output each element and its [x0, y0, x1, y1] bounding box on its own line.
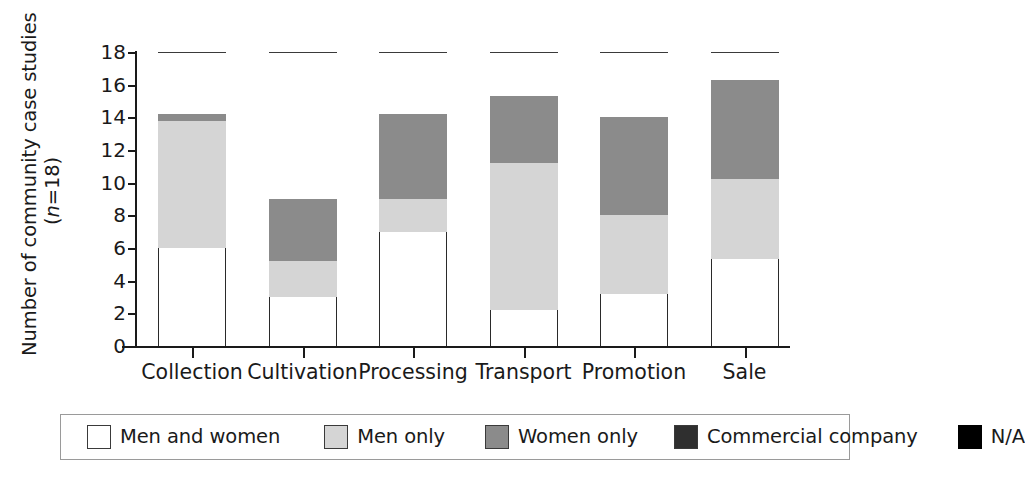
chart-legend: Men and womenMen onlyWomen onlyCommercia… [60, 414, 850, 460]
bar-segment-promotion-women-only [600, 117, 668, 215]
bar-top-outline [711, 52, 779, 53]
legend-item-women-only: Women only [485, 425, 638, 449]
y-axis-tick-mark [128, 346, 136, 348]
bar-segment-processing-women-only [379, 114, 447, 199]
x-axis-tick-label-transport: Transport [475, 362, 571, 383]
x-axis-tick-mark [303, 346, 305, 358]
y-axis-title-n-value: =18) [41, 157, 64, 205]
y-axis-tick-label: 16 [98, 75, 126, 95]
legend-label-men-only: Men only [357, 427, 445, 447]
legend-label-commercial-company: Commercial company [707, 427, 918, 447]
legend-label-n-a: N/A [991, 427, 1025, 447]
legend-swatch-n-a [958, 425, 982, 449]
bar-segment-cultivation-women-only [269, 199, 337, 261]
bar-segment-collection-men-and-women [158, 248, 226, 346]
y-axis-title-line2: (n=18) [41, 26, 64, 356]
bar-segment-cultivation-men-only [269, 261, 337, 297]
y-axis-tick-label: 12 [98, 140, 126, 160]
y-axis-title-wrapper: Number of community case studies (n=18) [0, 0, 56, 400]
bar-segment-sale-women-only [711, 80, 779, 180]
legend-item-men-and-women: Men and women [87, 425, 280, 449]
bar-sale [711, 52, 779, 346]
y-axis-tick-label: 6 [98, 238, 126, 258]
x-axis-tick-label-processing: Processing [358, 362, 467, 383]
bar-cultivation [269, 52, 337, 346]
bar-segment-cultivation-men-and-women [269, 297, 337, 346]
y-axis-tick-mark [128, 52, 136, 54]
y-axis-tick-label: 10 [98, 173, 126, 193]
y-axis-tick-label: 14 [98, 107, 126, 127]
legend-label-men-and-women: Men and women [120, 427, 280, 447]
y-axis-tick-label: 0 [98, 336, 126, 356]
bar-processing [379, 52, 447, 346]
legend-item-n-a: N/A [958, 425, 1025, 449]
bar-segment-transport-men-only [490, 163, 558, 310]
plot-area: 024681012141618 CollectionCultivationPro… [136, 52, 776, 346]
bar-segment-collection-men-only [158, 121, 226, 248]
legend-label-women-only: Women only [518, 427, 638, 447]
bar-segment-collection-n-a [158, 52, 226, 114]
x-axis-tick-label-cultivation: Cultivation [247, 362, 358, 383]
y-axis-tick-mark [128, 215, 136, 217]
bar-segment-sale-men-only [711, 179, 779, 259]
x-axis-tick-mark [745, 346, 747, 358]
x-axis-tick-mark [413, 346, 415, 358]
legend-swatch-men-only [324, 425, 348, 449]
x-axis-tick-mark [634, 346, 636, 358]
bar-segment-promotion-n-a [600, 52, 668, 81]
x-axis-tick-label-collection: Collection [141, 362, 242, 383]
bar-segment-promotion-commercial-company [600, 81, 668, 117]
bar-top-outline [490, 52, 558, 53]
bar-segment-cultivation-n-a [269, 52, 337, 199]
y-axis-line [135, 51, 137, 347]
x-axis-tick-mark [192, 346, 194, 358]
y-axis-tick-label: 18 [98, 42, 126, 62]
x-axis-line [122, 346, 790, 348]
legend-swatch-commercial-company [674, 425, 698, 449]
bar-segment-promotion-men-and-women [600, 294, 668, 346]
y-axis-tick-mark [128, 150, 136, 152]
y-axis-title: Number of community case studies (n=18) [18, 26, 64, 356]
bar-segment-transport-men-and-women [490, 310, 558, 346]
bar-transport [490, 52, 558, 346]
y-axis-tick-label: 2 [98, 303, 126, 323]
bar-promotion [600, 52, 668, 346]
bar-segment-transport-women-only [490, 96, 558, 163]
y-axis-tick-mark [128, 117, 136, 119]
x-axis-tick-mark [524, 346, 526, 358]
bar-segment-sale-men-and-women [711, 259, 779, 346]
y-axis-tick-mark [128, 85, 136, 87]
bar-top-outline [158, 52, 226, 53]
y-axis-tick-label: 4 [98, 271, 126, 291]
bar-segment-sale-commercial-company [711, 52, 779, 80]
y-axis-tick-mark [128, 183, 136, 185]
legend-item-commercial-company: Commercial company [674, 425, 918, 449]
y-axis-title-line1: Number of community case studies [18, 12, 41, 356]
bar-segment-processing-n-a [379, 52, 447, 114]
y-axis-tick-mark [128, 281, 136, 283]
y-axis-tick-mark [128, 248, 136, 250]
x-axis-tick-label-promotion: Promotion [582, 362, 686, 383]
bar-segment-promotion-men-only [600, 215, 668, 293]
bar-top-outline [600, 52, 668, 53]
x-axis-tick-label-sale: Sale [723, 362, 767, 383]
bar-top-outline [269, 52, 337, 53]
bar-segment-processing-men-only [379, 199, 447, 232]
bar-segment-collection-women-only [158, 114, 226, 121]
y-axis-title-n-italic: n [41, 205, 64, 217]
y-axis-tick-mark [128, 313, 136, 315]
y-axis-tick-label: 8 [98, 205, 126, 225]
legend-item-men-only: Men only [324, 425, 445, 449]
bar-top-outline [379, 52, 447, 53]
legend-swatch-men-and-women [87, 425, 111, 449]
bar-segment-transport-commercial-company [490, 59, 558, 97]
legend-swatch-women-only [485, 425, 509, 449]
bar-segment-processing-men-and-women [379, 232, 447, 346]
bar-collection [158, 52, 226, 346]
